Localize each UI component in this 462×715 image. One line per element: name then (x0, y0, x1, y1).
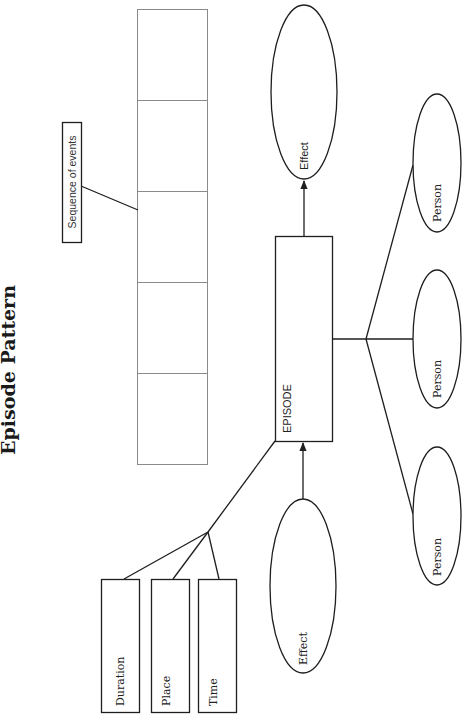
episode-pattern-diagram: Episode Pattern Sequence of events EPISO… (0, 0, 462, 715)
effect-output-label: Effect (298, 142, 310, 170)
attribute-time: Time (199, 580, 237, 713)
person-1-connector (366, 165, 413, 339)
effect-input-label: Effect (297, 631, 310, 665)
person-3: Person (413, 447, 461, 585)
sequence-cell (138, 101, 208, 192)
sequence-of-events (138, 10, 208, 465)
sequence-cell (138, 283, 208, 374)
person-1: Person (413, 94, 461, 232)
place-connector (173, 532, 208, 579)
sequence-cell (138, 374, 208, 465)
time-label: Time (207, 678, 220, 706)
sequence-label: Sequence of events (66, 136, 78, 229)
episode-attribute-connector (208, 441, 275, 532)
sequence-connector (81, 186, 138, 210)
person-2-label: Person (431, 360, 444, 398)
person-1-label: Person (431, 184, 444, 222)
sequence-cell (138, 10, 208, 101)
person-3-connector (366, 339, 413, 514)
episode-label: EPISODE (281, 384, 293, 433)
duration-connector (124, 532, 208, 579)
page-title: Episode Pattern (0, 285, 19, 455)
time-connector (208, 532, 219, 579)
person-3-label: Person (431, 538, 444, 576)
duration-label: Duration (114, 657, 127, 706)
attribute-place: Place (152, 580, 190, 713)
attribute-duration: Duration (102, 580, 140, 713)
sequence-cell (138, 192, 208, 283)
person-2: Person (413, 270, 461, 408)
place-label: Place (160, 676, 173, 706)
